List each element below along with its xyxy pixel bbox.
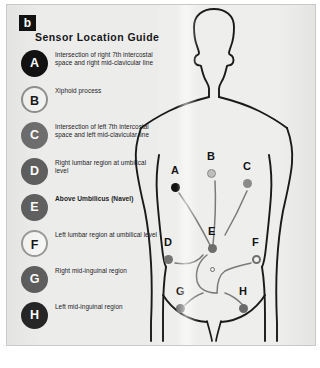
figure-panel-b: b Sensor Location Guide AIntersection of… (0, 0, 320, 368)
legend-badge-g: G (21, 266, 48, 293)
body-sensor-label-g: G (176, 286, 185, 297)
lead-wire-e (196, 255, 217, 293)
lead-wire-g (185, 293, 203, 305)
shoulder-left (219, 97, 287, 128)
arm-left-inner (262, 155, 271, 267)
head-outline (194, 9, 234, 97)
arm-right-inner (157, 155, 166, 267)
legend-badge-b: B (21, 86, 48, 113)
body-sensor-e (208, 244, 217, 253)
body-sensor-label-c: C (243, 161, 251, 172)
arm-right-outer (136, 128, 152, 341)
neck-outline-left (194, 27, 209, 97)
scanned-plate: b Sensor Location Guide AIntersection of… (6, 4, 316, 346)
leg-right-inner (163, 267, 166, 341)
body-sensor-c (243, 179, 252, 188)
body-sensor-label-b: B (207, 151, 215, 162)
body-sensor-label-a: A (171, 165, 179, 176)
panel-label-b: b (19, 15, 36, 31)
lead-wire-c (225, 191, 247, 235)
legend-badge-c: C (21, 122, 48, 149)
lead-wire-a (179, 193, 211, 247)
body-sensor-label-f: F (252, 237, 259, 248)
legend-badge-e: E (21, 194, 48, 221)
inguinal-line-right (163, 295, 207, 322)
shoulder-right (141, 97, 209, 128)
body-diagram: ABCDEFGH (133, 5, 315, 345)
body-sensor-label-d: D (164, 237, 172, 248)
legend-badge-h: H (21, 302, 48, 329)
arm-left-outer (276, 128, 292, 341)
body-sensor-label-h: H (239, 286, 247, 297)
lead-wire-d (175, 255, 203, 264)
body-outline-svg (133, 5, 315, 345)
legend-badge-a: A (21, 50, 48, 77)
body-sensor-a (171, 183, 180, 192)
leg-left-inner (262, 267, 265, 341)
body-sensor-g (176, 304, 185, 313)
body-sensor-h (239, 304, 248, 313)
body-sensor-label-e: E (208, 226, 215, 237)
leg-gap-left (216, 321, 221, 341)
legend-badge-d: D (21, 158, 48, 185)
body-sensor-f (252, 255, 261, 264)
body-sensor-b (207, 169, 216, 178)
body-sensor-d (164, 255, 173, 264)
leg-gap-right (207, 321, 212, 341)
navel-marker (210, 267, 215, 272)
legend-badge-f: F (21, 230, 48, 257)
